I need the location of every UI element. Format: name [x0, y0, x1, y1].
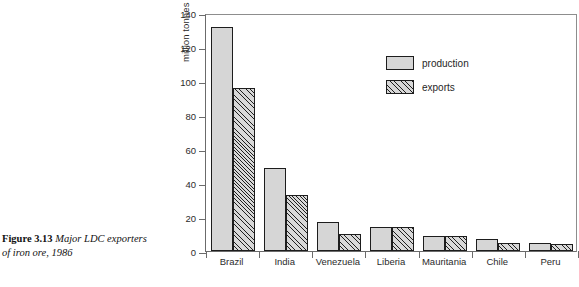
- bar-mauritania-production: [423, 236, 445, 251]
- cropped-header-artifact: [0, 0, 579, 5]
- y-axis-tick: 40: [199, 185, 206, 186]
- y-axis-tick: 60: [199, 151, 206, 152]
- legend-label-production: production: [422, 58, 469, 69]
- legend-swatch-production-icon: [386, 56, 414, 70]
- figure-caption: Figure 3.13 Major LDC exporters of iron …: [2, 232, 152, 259]
- bar-peru-production: [529, 243, 551, 252]
- x-axis-tick: [312, 251, 313, 258]
- bar-liberia-exports: [392, 227, 414, 251]
- bar-chile-production: [476, 239, 498, 251]
- chart-legend: production exports: [386, 53, 469, 101]
- y-axis-tick: 80: [199, 117, 206, 118]
- x-axis-tick: [206, 251, 207, 258]
- y-axis-tick-label: 140: [180, 9, 196, 20]
- legend-item-production: production: [386, 53, 469, 73]
- bar-venezuela-exports: [339, 234, 361, 251]
- y-axis-tick-label: 80: [185, 111, 196, 122]
- bar-chile-exports: [498, 243, 520, 252]
- bar-liberia-production: [370, 227, 392, 251]
- bar-india-exports: [286, 195, 308, 251]
- x-axis-tick: [419, 251, 420, 258]
- y-axis-tick: 120: [199, 49, 206, 50]
- y-axis-tick-label: 0: [191, 247, 196, 258]
- x-axis-label-peru: Peru: [540, 256, 560, 267]
- plot-area: 020406080100120140 production exports: [205, 14, 577, 252]
- y-axis-tick-label: 40: [185, 179, 196, 190]
- x-axis-tick: [365, 251, 366, 258]
- legend-item-exports: exports: [386, 77, 469, 97]
- bar-venezuela-production: [317, 222, 339, 251]
- bar-peru-exports: [551, 244, 573, 251]
- y-axis-tick-label: 100: [180, 77, 196, 88]
- y-axis-tick-label: 60: [185, 145, 196, 156]
- y-axis-tick: 100: [199, 83, 206, 84]
- bar-india-production: [264, 168, 286, 251]
- x-axis-label-brazil: Brazil: [220, 256, 244, 267]
- y-axis-tick: 0: [199, 253, 206, 254]
- y-axis-tick: 140: [199, 15, 206, 16]
- x-axis-tick: [472, 251, 473, 258]
- bar-brazil-exports: [233, 88, 255, 251]
- legend-swatch-exports-icon: [386, 80, 414, 94]
- y-axis-tick-label: 20: [185, 213, 196, 224]
- chart-container: million tonnes of raw iron ore 020406080…: [150, 6, 579, 287]
- y-axis-tick: 20: [199, 219, 206, 220]
- bar-brazil-production: [211, 27, 233, 251]
- x-axis-label-liberia: Liberia: [377, 256, 406, 267]
- bar-mauritania-exports: [445, 236, 467, 251]
- x-axis-tick: [259, 251, 260, 258]
- x-axis-label-india: India: [274, 256, 295, 267]
- y-axis-tick-label: 120: [180, 43, 196, 54]
- x-axis-label-venezuela: Venezuela: [316, 256, 360, 267]
- figure-page: Figure 3.13 Major LDC exporters of iron …: [0, 0, 579, 287]
- figure-number: Figure 3.13: [2, 233, 53, 244]
- x-axis-tick: [525, 251, 526, 258]
- x-axis-label-mauritania: Mauritania: [422, 256, 466, 267]
- legend-label-exports: exports: [422, 82, 455, 93]
- x-axis-label-chile: Chile: [486, 256, 508, 267]
